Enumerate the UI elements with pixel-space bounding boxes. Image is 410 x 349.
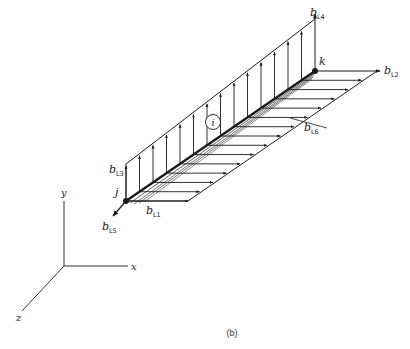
figure-caption: (b) [227, 328, 238, 338]
label-bL5: b L5 [102, 220, 117, 235]
svg-text:b: b [146, 204, 153, 217]
svg-text:L5: L5 [109, 227, 117, 235]
label-bL2: b L2 [384, 64, 399, 79]
coordinate-axes [22, 201, 128, 311]
svg-text:L6: L6 [311, 128, 319, 136]
axis-label-x: x [131, 261, 137, 272]
label-bL6: b L6 [304, 121, 319, 136]
horizontal-load-arrows [126, 80, 362, 201]
label-bL3: b L3 [109, 163, 124, 178]
svg-text:L2: L2 [391, 71, 399, 79]
node-j [123, 198, 129, 204]
svg-text:b: b [102, 220, 109, 233]
svg-text:L3: L3 [116, 170, 124, 178]
element-label-text: i [211, 117, 214, 128]
axis-label-z: z [15, 312, 22, 323]
axis-label-y: y [60, 187, 67, 198]
svg-text:L1: L1 [153, 211, 161, 219]
node-label-j: j [112, 186, 119, 199]
svg-text:b: b [109, 163, 116, 176]
svg-text:b: b [384, 64, 391, 77]
element-label: i [206, 115, 221, 130]
node-k [312, 68, 318, 74]
node-label-k: k [319, 55, 326, 68]
diagram-canvas: i j k b L4 b L2 b L6 b L3 b L1 b L5 y x … [0, 0, 410, 349]
label-bL4: b L4 [310, 6, 325, 21]
svg-text:b: b [310, 6, 317, 19]
horizontal-plane-outer-edge [188, 71, 377, 201]
svg-text:b: b [304, 121, 311, 134]
svg-text:L4: L4 [317, 13, 325, 21]
label-bL1: b L1 [146, 204, 161, 219]
axis-z [22, 266, 64, 311]
